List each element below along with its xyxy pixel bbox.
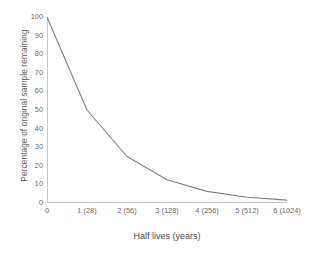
plot-svg — [47, 17, 287, 203]
y-tick-label: 20 — [21, 162, 43, 170]
plot-area — [47, 17, 287, 203]
x-tick-label: 2 (56) — [117, 206, 136, 216]
y-tick-label: 40 — [21, 125, 43, 133]
decay-chart: Percentage of original sample remaining … — [0, 0, 310, 258]
x-tick-label: 4 (256) — [195, 206, 218, 216]
x-axis-tick-labels: 01 (28)2 (56)3 (128)4 (256)5 (512)6 (102… — [0, 206, 310, 220]
y-tick-label: 30 — [21, 143, 43, 151]
y-tick-label: 90 — [21, 32, 43, 40]
x-tick-label: 0 — [45, 206, 49, 216]
y-tick-label: 50 — [21, 106, 43, 114]
x-tick-label: 3 (128) — [155, 206, 178, 216]
y-tick-label: 70 — [21, 69, 43, 77]
x-axis-title: Half lives (years) — [47, 231, 287, 241]
x-tick-label: 6 (1024) — [273, 206, 301, 216]
y-tick-label: 60 — [21, 87, 43, 95]
y-tick-label: 80 — [21, 50, 43, 58]
x-tick-label: 1 (28) — [77, 206, 96, 216]
y-tick-label: 10 — [21, 180, 43, 188]
x-tick-label: 5 (512) — [235, 206, 258, 216]
decay-curve-line — [47, 17, 287, 200]
y-tick-label: 100 — [21, 13, 43, 21]
